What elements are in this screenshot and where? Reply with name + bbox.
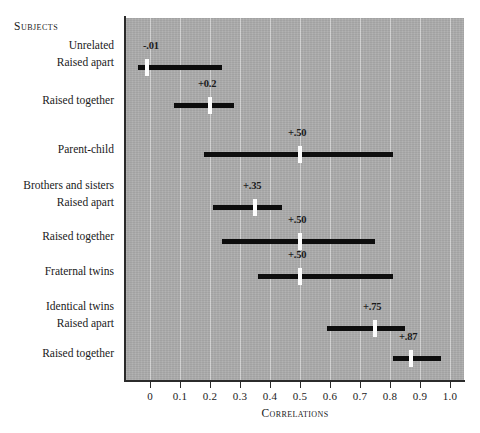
x-tick-label-1.0: 1.0 xyxy=(430,390,470,402)
value-label: -.01 xyxy=(143,40,159,51)
range-bar xyxy=(327,326,405,331)
x-tick-0.4 xyxy=(270,382,271,388)
group-label: Identical twins xyxy=(0,300,114,312)
mean-marker xyxy=(409,350,413,367)
range-bar xyxy=(213,205,282,210)
value-label: +.75 xyxy=(363,301,381,312)
mean-marker xyxy=(145,59,149,76)
row-label: Raised together xyxy=(0,94,114,106)
group-label: Brothers and sisters xyxy=(0,179,114,191)
gridline-0.3 xyxy=(240,18,241,380)
x-tick-0.7 xyxy=(360,382,361,388)
value-label: +.50 xyxy=(288,214,306,225)
x-tick-0.8 xyxy=(390,382,391,388)
x-tick-0.2 xyxy=(210,382,211,388)
mean-marker xyxy=(253,199,257,216)
mean-marker xyxy=(208,97,212,114)
value-label: +0.2 xyxy=(198,78,216,89)
x-tick-1.0 xyxy=(450,382,451,388)
row-label: Raised apart xyxy=(0,317,114,329)
value-label: +.50 xyxy=(288,127,306,138)
subjects-heading: Subjects xyxy=(14,20,58,32)
row-label: Raised together xyxy=(0,230,114,242)
row-label: Raised apart xyxy=(0,56,114,68)
row-label: Parent-child xyxy=(0,143,114,155)
x-tick-0.5 xyxy=(300,382,301,388)
group-label: Unrelated xyxy=(0,39,114,51)
x-tick-0 xyxy=(150,382,151,388)
gridline-1.0 xyxy=(450,18,451,380)
range-bar xyxy=(174,103,234,108)
y-axis-line xyxy=(124,16,126,382)
gridline-0.4 xyxy=(270,18,271,380)
gridline-0.1 xyxy=(180,18,181,380)
mean-marker xyxy=(373,320,377,337)
gridline-0 xyxy=(150,18,151,380)
mean-marker xyxy=(298,233,302,250)
panel-texture xyxy=(126,18,464,380)
gridline-0.5 xyxy=(300,18,301,380)
range-bar xyxy=(258,274,393,279)
mean-marker xyxy=(298,268,302,285)
gridline-0.2 xyxy=(210,18,211,380)
value-label: +.87 xyxy=(399,331,417,342)
range-bar xyxy=(393,356,441,361)
row-label: Raised together xyxy=(0,347,114,359)
row-label: Raised apart xyxy=(0,196,114,208)
row-label: Fraternal twins xyxy=(0,265,114,277)
value-label: +.50 xyxy=(288,249,306,260)
value-label: +.35 xyxy=(243,180,261,191)
x-tick-0.6 xyxy=(330,382,331,388)
x-tick-0.3 xyxy=(240,382,241,388)
x-tick-0.1 xyxy=(180,382,181,388)
plot-area xyxy=(126,18,464,380)
mean-marker xyxy=(298,146,302,163)
correlation-range-chart: 00.10.20.30.40.50.60.70.80.91.0 Correlat… xyxy=(0,0,480,433)
x-axis-line xyxy=(124,380,465,382)
gridline-0.9 xyxy=(420,18,421,380)
range-bar xyxy=(138,65,222,70)
x-axis-title: Correlations xyxy=(126,407,464,419)
x-tick-0.9 xyxy=(420,382,421,388)
